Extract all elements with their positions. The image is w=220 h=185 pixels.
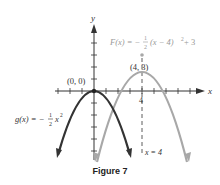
vertex-point-label: (4, 3) xyxy=(130,62,149,72)
y-axis-arrow-icon xyxy=(91,24,97,33)
x-axis xyxy=(55,88,205,94)
svg-text:(x − 4): (x − 4) xyxy=(150,37,174,47)
svg-text:2: 2 xyxy=(49,121,52,127)
svg-text:1: 1 xyxy=(49,112,52,118)
g-curve-left-arrow-icon xyxy=(56,148,62,158)
figure-7: x y 4 x = 4 xyxy=(0,0,220,185)
origin-point-label: (0, 0) xyxy=(67,76,86,86)
g-curve-right-arrow-icon xyxy=(126,148,132,158)
figure-caption: Figure 7 xyxy=(0,166,220,176)
svg-text:g(x) = −: g(x) = − xyxy=(15,114,44,124)
x-axis-label: x xyxy=(207,86,212,96)
vertex-point xyxy=(140,53,144,57)
x-axis-arrow-icon xyxy=(196,88,205,94)
svg-text:x: x xyxy=(54,114,59,124)
svg-text:1: 1 xyxy=(144,35,147,41)
svg-text:2: 2 xyxy=(144,44,147,50)
y-axis-label: y xyxy=(90,13,95,23)
graph-canvas: x y 4 x = 4 xyxy=(0,0,220,185)
svg-text:F(x) = −: F(x) = − xyxy=(109,37,140,47)
g-equation-label: g(x) = − 1 2 x 2 xyxy=(15,112,63,127)
tick-label-4: 4 xyxy=(139,96,143,105)
F-equation-label: F(x) = − 1 2 (x − 4) 2 + 3 xyxy=(109,35,195,50)
svg-text:+ 3: + 3 xyxy=(184,37,195,47)
axis-of-symmetry-label: x = 4 xyxy=(144,148,162,157)
svg-text:2: 2 xyxy=(60,112,63,118)
origin-point xyxy=(92,89,96,93)
